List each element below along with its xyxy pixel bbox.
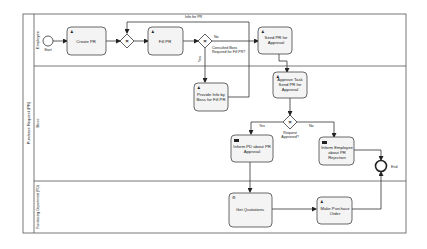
user-icon: ♟	[197, 86, 201, 90]
bpmn-diagram: Purchase Request (PR) Employee Boss Purc…	[0, 0, 427, 249]
start-label: Start	[44, 48, 52, 52]
task-fill-pr[interactable]: ♟ Fill PR	[148, 27, 183, 55]
lane-label-pd: Purchasing Department (PD)	[36, 185, 40, 229]
x-icon: ×	[125, 38, 129, 44]
gateway-merge[interactable]: ×	[120, 34, 134, 48]
flow-label-no-1: No	[214, 35, 219, 39]
user-icon: ♟	[151, 30, 155, 34]
x-icon: ×	[288, 119, 292, 125]
svg-text:Approval: Approval	[282, 87, 299, 92]
task-create-pr[interactable]: ♟ Create PR	[67, 27, 106, 55]
svg-text:Rejection: Rejection	[328, 155, 346, 160]
task-inform-pd[interactable]: Inform PD about PR Approval	[231, 135, 273, 162]
flow-label-no-2: No	[309, 124, 314, 128]
user-icon: ♟	[261, 30, 265, 34]
task-make-purchase-order[interactable]: ♟ Make Purchase Order	[317, 197, 352, 224]
gateway-request-approved[interactable]: × Request Approved?	[281, 115, 298, 139]
svg-text:Fill PR: Fill PR	[159, 39, 171, 44]
message-icon	[322, 141, 327, 144]
lane-label-boss: Boss	[35, 119, 40, 128]
end-label: End	[391, 165, 397, 169]
flow-label-info-for-pr: Info for PR	[185, 15, 203, 19]
lane-label-employee: Employee	[35, 30, 40, 49]
task-inform-employee[interactable]: Inform Employee about PR Rejection	[319, 137, 354, 165]
flow-label-yes-2: Yes	[259, 124, 265, 128]
svg-text:Get Quotations: Get Quotations	[236, 207, 264, 212]
svg-text:Approved?: Approved?	[281, 135, 298, 139]
task-get-quotations[interactable]: ⚙ Get Quotations	[229, 193, 272, 227]
task-send-pr-for-approval[interactable]: ♟ Send PR for Approval	[258, 27, 292, 54]
svg-text:Required for Fill PR?: Required for Fill PR?	[212, 50, 245, 54]
pool-label: Purchase Request (PR)	[26, 101, 31, 144]
start-event[interactable]: Start	[43, 36, 53, 52]
user-icon: ♟	[320, 200, 324, 204]
task-approve-send-pr[interactable]: ♟ Approve Task Send PR for Approval	[273, 72, 307, 98]
gear-icon: ⚙	[232, 196, 236, 200]
flow-label-yes-1: Yes	[198, 56, 202, 62]
svg-text:Order: Order	[330, 211, 341, 216]
message-icon	[234, 139, 239, 142]
end-event[interactable]: End	[376, 161, 398, 172]
task-provide-info[interactable]: ♟ Provide Info by Boss for Fill PR	[194, 83, 228, 111]
svg-text:Approval: Approval	[268, 40, 285, 45]
svg-text:Create PR: Create PR	[76, 39, 96, 44]
lane-purchasing-department: Purchasing Department (PD)	[36, 185, 40, 229]
x-icon: ×	[203, 38, 207, 44]
svg-text:Approval: Approval	[244, 149, 261, 154]
user-icon: ♟	[70, 30, 74, 34]
svg-text:Boss for Fill PR: Boss for Fill PR	[197, 97, 226, 102]
